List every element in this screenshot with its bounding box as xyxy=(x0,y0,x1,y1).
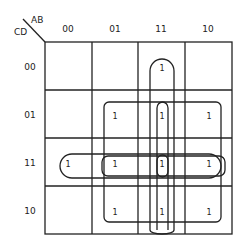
col-var-label: AB xyxy=(31,15,43,25)
karnaugh-map: AB CD 00 01 11 10 00 01 11 10 1 1 1 1 1 … xyxy=(0,0,244,246)
cell-11-11: 1 xyxy=(159,160,164,169)
group-row-11-all-cols xyxy=(60,154,221,178)
row-header-10: 10 xyxy=(24,206,36,216)
grid xyxy=(45,42,232,234)
cell-10-11: 1 xyxy=(159,208,164,217)
cell-11-10: 1 xyxy=(206,160,211,169)
cell-11-00: 1 xyxy=(65,160,70,169)
cell-10-01: 1 xyxy=(112,208,117,217)
row-header-11: 11 xyxy=(24,158,35,168)
cell-00-11: 1 xyxy=(159,64,164,73)
cell-01-10: 1 xyxy=(206,112,211,121)
row-header-00: 00 xyxy=(24,62,36,72)
cell-01-11: 1 xyxy=(159,112,164,121)
row-var-label: CD xyxy=(14,27,27,37)
row-header-01: 01 xyxy=(24,110,35,120)
cell-01-01: 1 xyxy=(112,112,117,121)
col-header-11: 11 xyxy=(155,24,166,34)
col-header-01: 01 xyxy=(109,24,120,34)
cell-10-10: 1 xyxy=(206,208,211,217)
cell-11-01: 1 xyxy=(112,160,117,169)
col-header-00: 00 xyxy=(62,24,74,34)
col-header-10: 10 xyxy=(202,24,214,34)
